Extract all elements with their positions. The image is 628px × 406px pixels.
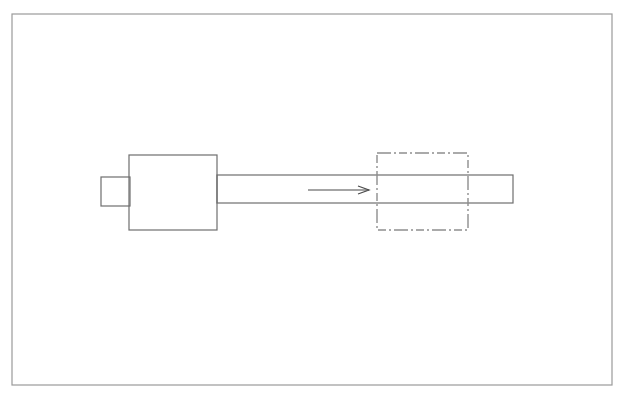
technical-diagram-figure (0, 0, 628, 406)
diagram-canvas (0, 0, 628, 406)
